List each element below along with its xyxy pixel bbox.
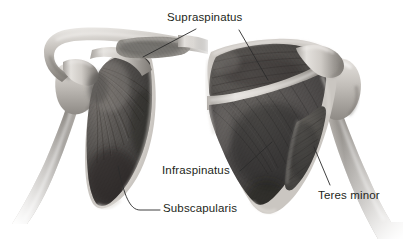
label-subscapularis: Subscapularis (163, 202, 237, 215)
left-view-right-fade (186, 34, 212, 54)
label-teres-minor: Teres minor (318, 189, 380, 202)
label-supraspinatus: Supraspinatus (167, 11, 242, 24)
anatomy-figure: Supraspinatus Infraspinatus Subscapulari… (0, 0, 403, 239)
glenoid-shadow-left (88, 72, 108, 104)
label-infraspinatus: Infraspinatus (162, 164, 230, 177)
